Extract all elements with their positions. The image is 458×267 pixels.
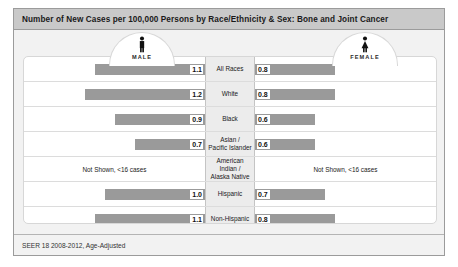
male-bar-value: 1.1	[190, 65, 203, 74]
female-bar-value: 0.8	[257, 65, 270, 74]
male-bar-value: 1.2	[190, 90, 203, 99]
chart-row: 0.7Asian /Pacific Islander0.6	[24, 132, 436, 157]
title-bar: Number of New Cases per 100,000 Persons …	[14, 9, 444, 30]
male-bar-cell: 0.7	[24, 132, 205, 156]
category-label: American Indian /Alaska Native	[205, 157, 255, 181]
female-bar-value: 0.8	[257, 215, 270, 224]
page-title: Number of New Cases per 100,000 Persons …	[14, 15, 388, 24]
female-bar-value: 0.6	[257, 140, 270, 149]
chart-panel: 1.1All Races0.81.2White0.80.9Black0.60.7…	[23, 56, 437, 224]
male-bar-value: 0.9	[190, 115, 203, 124]
male-bar: 0.9	[115, 114, 205, 125]
male-bar-cell: 1.1	[24, 207, 205, 224]
male-panel-label: MALE	[132, 54, 152, 60]
category-label: Non-Hispanic	[205, 207, 255, 224]
female-bar-value: 0.7	[257, 190, 270, 199]
female-bar-cell: 0.8	[255, 82, 436, 106]
male-bar: 1.0	[105, 189, 205, 200]
male-bar-value: 1.1	[190, 215, 203, 224]
chart-rows: 1.1All Races0.81.2White0.80.9Black0.60.7…	[24, 57, 436, 224]
female-panel-tab: FEMALE	[332, 32, 398, 66]
male-bar-value: 0.7	[190, 140, 203, 149]
chart-card: Number of New Cases per 100,000 Persons …	[13, 8, 445, 256]
female-bar-value: 0.8	[257, 90, 270, 99]
chart-row: 0.9Black0.6	[24, 107, 436, 132]
male-bar-cell: 0.9	[24, 107, 205, 131]
source-note: SEER 18 2008-2012, Age-Adjusted	[14, 242, 125, 249]
chart-row: Not Shown, <16 casesAmerican Indian /Ala…	[24, 157, 436, 182]
female-bar-cell: 0.8	[255, 207, 436, 224]
category-label: White	[205, 82, 255, 106]
category-label: Black	[205, 107, 255, 131]
female-bar: 0.6	[255, 114, 315, 125]
female-bar: 0.8	[255, 64, 335, 75]
chart-row: 1.0Hispanic0.7	[24, 182, 436, 207]
male-bar: 1.2	[85, 89, 205, 100]
chart-screenshot: Number of New Cases per 100,000 Persons …	[0, 0, 458, 267]
female-bar-value: 0.6	[257, 115, 270, 124]
male-bar-cell: Not Shown, <16 cases	[24, 157, 205, 181]
footer-bar: SEER 18 2008-2012, Age-Adjusted	[14, 234, 444, 255]
female-bar: 0.7	[255, 189, 325, 200]
male-not-shown-label: Not Shown, <16 cases	[24, 166, 205, 173]
male-bar-value: 1.0	[190, 190, 203, 199]
female-bar: 0.8	[255, 89, 335, 100]
female-bar: 0.6	[255, 139, 315, 150]
category-label: All Races	[205, 57, 255, 81]
male-bar-cell: 1.0	[24, 182, 205, 206]
chart-row: 1.1Non-Hispanic0.8	[24, 207, 436, 224]
female-bar: 0.8	[255, 214, 335, 225]
category-label: Hispanic	[205, 182, 255, 206]
chart-body: MALE FEMALE 1.1All Races0.81.2White0.80.…	[14, 30, 444, 235]
male-panel-tab: MALE	[109, 32, 175, 66]
female-bar-cell: 0.6	[255, 107, 436, 131]
female-figure-icon	[359, 36, 371, 53]
female-bar-cell: 0.7	[255, 182, 436, 206]
female-not-shown-label: Not Shown, <16 cases	[255, 166, 436, 173]
male-figure-icon	[136, 36, 148, 53]
male-bar: 0.7	[135, 139, 205, 150]
female-bar-cell: 0.6	[255, 132, 436, 156]
chart-row: 1.2White0.8	[24, 82, 436, 107]
male-bar-cell: 1.2	[24, 82, 205, 106]
male-bar: 1.1	[95, 214, 205, 225]
female-bar-cell: Not Shown, <16 cases	[255, 157, 436, 181]
category-label: Asian /Pacific Islander	[205, 132, 255, 156]
female-panel-label: FEMALE	[350, 54, 380, 60]
